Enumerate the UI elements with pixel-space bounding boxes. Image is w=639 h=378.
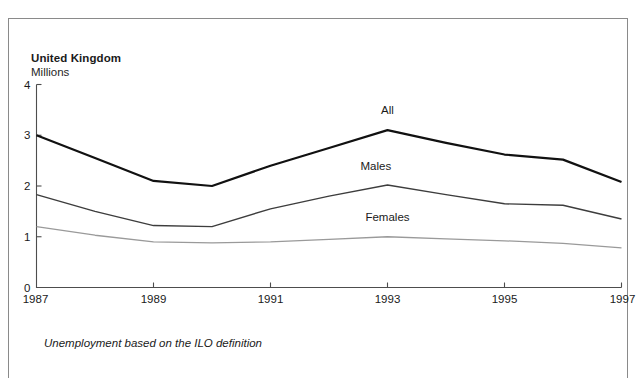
y-tick-label: 4 xyxy=(24,79,31,91)
series-line-males xyxy=(37,185,622,227)
series-label-males: Males xyxy=(360,160,391,172)
x-tick-label: 1995 xyxy=(492,293,518,305)
chart-y-tick-labels: 01234 xyxy=(24,79,31,294)
x-tick-label: 1993 xyxy=(375,293,401,305)
series-label-all: All xyxy=(381,104,394,116)
y-tick-label: 2 xyxy=(24,180,30,192)
x-tick-label: 1997 xyxy=(610,293,636,305)
chart-tick-marks xyxy=(37,85,622,288)
y-tick-label: 3 xyxy=(24,129,30,141)
series-label-females: Females xyxy=(365,211,409,223)
series-line-all xyxy=(37,130,622,186)
y-tick-label: 1 xyxy=(24,231,30,243)
x-tick-label: 1991 xyxy=(258,293,284,305)
x-tick-label: 1987 xyxy=(23,293,49,305)
chart-axes xyxy=(37,85,622,288)
chart-series-labels: AllMalesFemales xyxy=(360,104,409,223)
axis-spine xyxy=(37,85,622,288)
chart-x-tick-labels: 198719891991199319951997 xyxy=(23,293,636,305)
series-line-females xyxy=(37,227,622,248)
x-tick-label: 1989 xyxy=(141,293,167,305)
chart-series-lines xyxy=(37,130,622,248)
